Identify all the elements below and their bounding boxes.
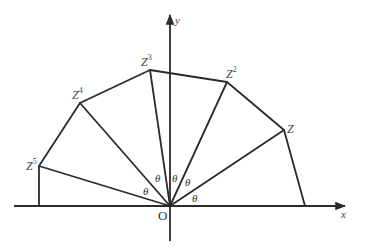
label-z4: Z4 — [72, 86, 83, 102]
label-z1: Z — [287, 122, 294, 136]
label-z3: Z3 — [141, 53, 152, 69]
y-axis-label: y — [174, 14, 180, 26]
diagram-canvas: Z Z2 Z3 Z4 Z5 θ θ θ θ θ x y O — [0, 0, 374, 252]
theta-label-1: θ — [192, 192, 198, 204]
x-axis-label: x — [340, 208, 346, 220]
complex-powers-diagram: Z Z2 Z3 Z4 Z5 θ θ θ θ θ x y O — [0, 0, 374, 252]
origin-label: O — [158, 208, 167, 223]
theta-label-3: θ — [172, 172, 178, 184]
label-z5: Z5 — [26, 157, 37, 173]
ray-o-z5 — [39, 166, 170, 206]
theta-label-4: θ — [155, 172, 161, 184]
label-z2: Z2 — [226, 65, 237, 81]
theta-label-5: θ — [143, 185, 149, 197]
theta-label-2: θ — [185, 176, 191, 188]
